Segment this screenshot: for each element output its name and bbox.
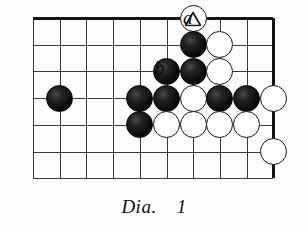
black-stone	[206, 85, 233, 112]
grid-line-horizontal	[33, 45, 273, 46]
grid-line-vertical	[86, 18, 87, 178]
grid-line-vertical	[33, 18, 34, 178]
grid-line-horizontal	[33, 152, 273, 153]
black-stone	[126, 85, 153, 112]
go-diagram: ab Dia.1	[0, 0, 308, 231]
grid-line-horizontal	[33, 17, 273, 20]
black-stone	[180, 58, 207, 85]
black-stone	[233, 85, 260, 112]
point-label-b: b	[155, 58, 165, 77]
black-stone	[46, 85, 73, 112]
white-stone	[260, 85, 287, 112]
point-label-a: a	[183, 8, 193, 27]
caption-number: 1	[177, 196, 187, 218]
grid-line-vertical	[113, 18, 114, 178]
white-stone	[180, 111, 207, 138]
diagram-caption: Dia.1	[0, 196, 308, 218]
black-stone	[153, 85, 180, 112]
caption-text: Dia.	[121, 196, 156, 217]
white-stone	[260, 138, 287, 165]
white-stone	[180, 85, 207, 112]
grid-line-horizontal	[33, 178, 273, 179]
black-stone	[180, 31, 207, 58]
